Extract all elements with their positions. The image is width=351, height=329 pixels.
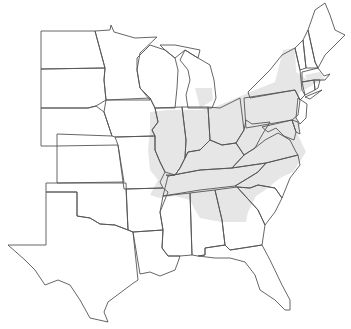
range-map: [0, 0, 351, 329]
state-minnesota: [95, 25, 157, 100]
state-texas: [8, 192, 138, 322]
shaded-range: [148, 48, 325, 222]
state-louisiana: [133, 230, 180, 276]
state-nebraska: [41, 106, 112, 146]
state-new-jersey: [296, 98, 307, 124]
state-north-dakota: [41, 31, 105, 69]
state-florida: [198, 245, 290, 310]
long-island: [305, 90, 322, 99]
state-kansas: [57, 145, 124, 183]
state-new-hampshire: [303, 30, 318, 68]
state-maine: [308, 3, 345, 68]
state-michigan-upper: [160, 45, 200, 58]
state-south-dakota: [41, 68, 106, 108]
state-mississippi: [160, 193, 192, 256]
state-oklahoma: [46, 183, 128, 230]
